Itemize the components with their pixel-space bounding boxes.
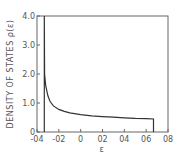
y-tick-label: 0 [30, 128, 35, 137]
dos-curve [44, 16, 153, 132]
x-axis-label: ε [100, 145, 105, 154]
density-of-states-chart: -04-02002040608 01.02.03.04.0 ε DENSITY … [0, 0, 184, 156]
x-tick-label: 08 [163, 135, 173, 144]
y-tick-label: 2.0 [22, 70, 35, 79]
x-tick-label: -02 [52, 135, 65, 144]
x-tick-label: 04 [119, 135, 129, 144]
y-tick-label: 4.0 [22, 12, 35, 21]
y-tick-label: 3.0 [22, 41, 35, 50]
x-tick-label: 0 [78, 135, 83, 144]
x-axis-ticks: -04-02002040608 [30, 129, 173, 144]
y-axis-label: DENSITY OF STATES ρ(ε) [6, 20, 15, 129]
y-tick-label: 1.0 [22, 99, 35, 108]
x-tick-label: 02 [97, 135, 107, 144]
plot-frame [37, 16, 168, 132]
x-tick-label: 06 [141, 135, 151, 144]
